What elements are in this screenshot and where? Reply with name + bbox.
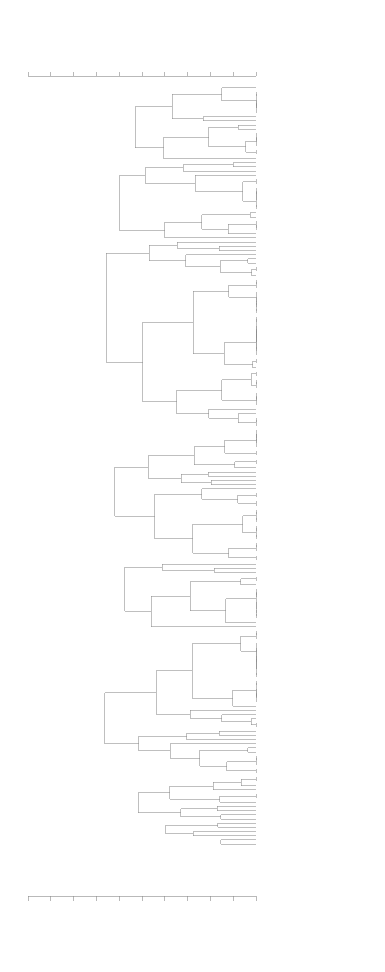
- dendrogram-figure: [0, 0, 385, 972]
- dendrogram-tree: [0, 0, 385, 972]
